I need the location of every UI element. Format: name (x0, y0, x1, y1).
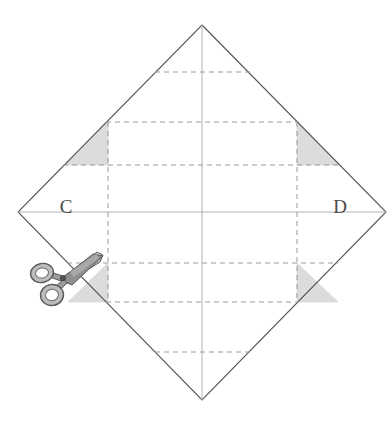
origami-diagram: C D (0, 0, 389, 427)
diagram-canvas: C D (0, 0, 389, 427)
vertex-label-d: D (333, 196, 347, 217)
vertex-label-c: C (60, 196, 73, 217)
shaded-corner-top-left (65, 122, 108, 165)
scissors-pivot (60, 275, 65, 280)
